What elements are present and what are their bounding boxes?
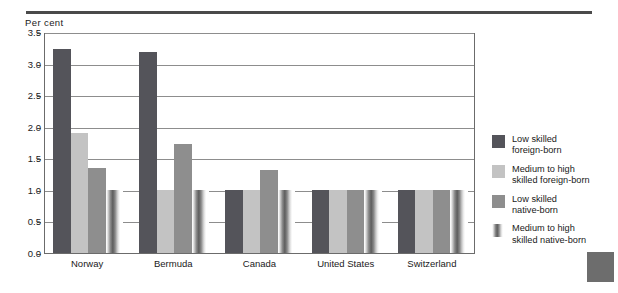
y-tick-mark [37, 33, 41, 34]
bar [329, 190, 347, 253]
bar [260, 170, 278, 253]
bar [312, 190, 330, 253]
y-axis: 0.00.51.01.52.02.53.03.5 [0, 33, 41, 254]
header-rule [26, 11, 592, 14]
y-tick-label: 2.0 [7, 122, 41, 133]
bar-group [45, 34, 131, 253]
y-tick-mark [37, 222, 41, 223]
y-tick-mark [37, 159, 41, 160]
bar [433, 190, 451, 253]
x-tick-label: United States [303, 258, 389, 269]
bar [398, 190, 416, 253]
x-tick-label: Bermuda [130, 258, 216, 269]
legend-label: Low skillednative-born [512, 194, 558, 217]
chart-legend: Low skilledforeign-bornMedium to highski… [492, 134, 618, 253]
bar [88, 168, 106, 253]
x-tick-label: Norway [44, 258, 130, 269]
bar [278, 190, 296, 253]
bar-group [217, 34, 303, 253]
y-tick-mark [37, 128, 41, 129]
bar [243, 190, 261, 253]
y-tick-mark [37, 254, 41, 255]
legend-swatch-icon [492, 195, 505, 208]
bar-series-container [45, 34, 474, 253]
y-tick-label: 1.5 [7, 153, 41, 164]
legend-item[interactable]: Low skillednative-born [492, 194, 618, 217]
y-tick-label: 0.0 [7, 248, 41, 259]
y-tick-label: 0.5 [7, 216, 41, 227]
legend-label: Medium to highskilled foreign-born [512, 164, 590, 187]
bar [415, 190, 433, 253]
x-tick-label: Switzerland [389, 258, 475, 269]
bar [139, 52, 157, 253]
bar [174, 144, 192, 253]
bar-group [304, 34, 390, 253]
bar-group [131, 34, 217, 253]
legend-swatch-icon [492, 224, 505, 237]
y-tick-mark [37, 96, 41, 97]
bar [71, 133, 89, 253]
y-tick-mark [37, 191, 41, 192]
bar [106, 190, 124, 253]
legend-swatch-icon [492, 165, 505, 178]
bar [192, 190, 210, 253]
y-tick-mark [37, 65, 41, 66]
bar [157, 190, 175, 253]
y-tick-label: 2.5 [7, 90, 41, 101]
y-tick-label: 3.0 [7, 59, 41, 70]
legend-label: Medium to highskilled native-born [512, 223, 586, 246]
legend-label: Low skilledforeign-born [512, 134, 562, 157]
legend-item[interactable]: Medium to highskilled foreign-born [492, 164, 618, 187]
y-tick-label: 1.0 [7, 185, 41, 196]
chart-figure: Per cent 0.00.51.01.52.02.53.03.5 Norway… [0, 0, 618, 293]
legend-item[interactable]: Low skilledforeign-born [492, 134, 618, 157]
y-tick-label: 3.5 [7, 27, 41, 38]
x-tick-label: Canada [216, 258, 302, 269]
bar-group [390, 34, 476, 253]
legend-item[interactable]: Medium to highskilled native-born [492, 223, 618, 246]
page-tab-marker [587, 252, 614, 282]
bar [225, 190, 243, 253]
bar [450, 190, 468, 253]
bar [347, 190, 365, 253]
bar [53, 49, 71, 253]
legend-swatch-icon [492, 135, 505, 148]
plot-area [44, 33, 475, 254]
bar [364, 190, 382, 253]
